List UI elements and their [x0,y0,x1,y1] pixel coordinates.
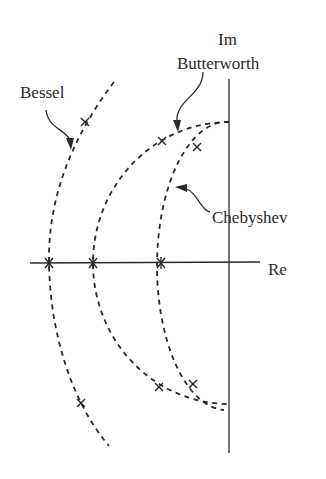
imaginary-axis-label: Im [218,30,237,49]
chebyshev-label: Chebyshev [212,208,288,227]
bessel-curve [49,82,114,446]
pole-diagram: Im Butterworth Bessel Chebyshev Re [0,0,326,479]
pole-marker [193,143,201,151]
pole-marker [189,380,197,388]
butterworth-label: Butterworth [177,54,260,73]
butterworth-pointer-arrow [173,72,203,132]
pole-marker [77,399,85,407]
real-axis [30,262,260,263]
chebyshev-pointer-arrow [175,184,210,212]
bessel-pointer-arrow [46,110,74,150]
bessel-label: Bessel [20,83,65,102]
pole-marker [158,137,166,145]
chebyshev-curve [157,122,229,410]
real-axis-label: Re [268,260,287,279]
